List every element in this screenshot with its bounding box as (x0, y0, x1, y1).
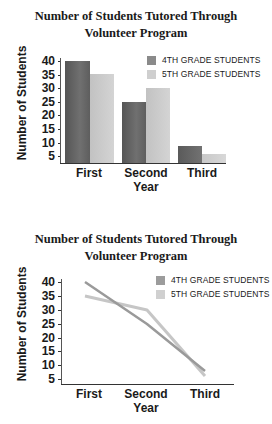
legend-swatch-4th (156, 276, 165, 285)
line-5th-grade (85, 296, 205, 376)
legend-label: 5TH GRADE STUDENTS (171, 289, 270, 299)
legend-label: 4TH GRADE STUDENTS (171, 275, 270, 285)
legend-5th-grade: 5TH GRADE STUDENTS (156, 289, 270, 299)
legend-swatch-5th (156, 290, 165, 299)
line-plot-area (0, 0, 272, 424)
x-category-second: Second (116, 387, 176, 401)
x-category-third: Third (175, 387, 235, 401)
legend-4th-grade: 4TH GRADE STUDENTS (156, 275, 270, 285)
x-axis-title: Year (116, 401, 176, 415)
x-category-first: First (59, 387, 119, 401)
